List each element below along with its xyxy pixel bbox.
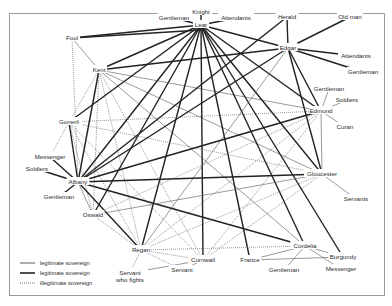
node-label: Servant — [119, 269, 141, 276]
node-old_man: Old man — [337, 12, 363, 20]
edge-edmund-gloucester — [321, 111, 322, 174]
edge-lear-cordelia — [201, 25, 305, 246]
node-label: Messenger — [35, 153, 66, 160]
node-gentleman_lear: Gentleman — [158, 13, 191, 21]
node-label: Attendants — [221, 14, 251, 21]
node-fool: Fool — [64, 33, 80, 41]
node-albany: Albany — [67, 177, 90, 185]
legend-label-thin: legitimate sovereign — [40, 260, 90, 266]
edge-herald-albany — [78, 17, 287, 182]
node-gentleman_edmund: Gentleman — [313, 84, 346, 92]
node-soldiers_edmund: Soldiers — [332, 95, 361, 103]
node-gentleman_albany: Gentleman — [43, 192, 76, 200]
edge-lear-goneril — [69, 25, 201, 122]
node-label: Messenger — [326, 265, 357, 272]
node-label: Edmund — [309, 107, 333, 114]
node-label: Lear — [195, 21, 207, 28]
node-label: Gloucester — [307, 170, 337, 177]
node-label: Soldiers — [26, 165, 48, 172]
node-regan: Regan — [131, 245, 151, 253]
node-servant_fights: Servantwho fights — [112, 268, 148, 283]
node-label: Old man — [338, 13, 362, 20]
node-label: Gentleman — [159, 14, 190, 21]
edge-kent-albany — [78, 70, 99, 182]
node-oswald: Oswald — [82, 210, 105, 218]
node-label: Kent — [93, 66, 106, 73]
edge-lear-edgar — [201, 25, 288, 48]
edge-lear-albany — [78, 25, 201, 182]
legend-label-dotted: illegitimate sovereign — [40, 280, 92, 286]
edges-layer — [37, 12, 363, 273]
edge-kent-gloucester — [99, 70, 322, 174]
node-servant: Servant — [169, 265, 195, 273]
node-edgar: Edgar — [278, 43, 298, 51]
node-label: Gentleman — [44, 193, 75, 200]
node-label: Cornwall — [191, 256, 215, 263]
node-label: Herald — [278, 13, 297, 20]
node-label: Soldiers — [336, 96, 358, 103]
edge-lear-france — [201, 25, 250, 260]
legend-label-thick: legitimate sovereign — [40, 270, 90, 276]
node-gloucester: Gloucester — [304, 169, 340, 177]
node-lear: Lear — [193, 20, 209, 28]
node-label: Servants — [344, 195, 368, 202]
edge-gloucester-regan — [141, 174, 322, 250]
node-soldiers_albany: Soldiers — [22, 164, 51, 172]
node-label: Gentleman — [314, 85, 345, 92]
edge-edmund-cornwall — [203, 111, 321, 260]
node-herald: Herald — [276, 12, 299, 20]
node-label: Gentleman — [269, 266, 300, 273]
edge-edmund-goneril — [69, 111, 321, 122]
node-burgundy: Burgundy — [328, 252, 357, 260]
edge-kent-cornwall — [99, 70, 203, 260]
node-edmund: Edmund — [309, 106, 333, 114]
node-label: Burgundy — [330, 253, 357, 260]
node-knight: Knight — [190, 7, 213, 15]
edge-lear-oswald — [93, 25, 201, 215]
edge-kent-oswald — [93, 70, 99, 215]
node-kent: Kent — [91, 65, 107, 73]
node-label: Edgar — [280, 44, 297, 51]
node-messenger_cordelia: Messenger — [325, 264, 358, 272]
node-label: Servant — [171, 266, 193, 273]
node-servants: Servants — [341, 194, 370, 202]
node-curan: Curan — [335, 122, 355, 130]
character-network-graph: legitimate sovereign legitimate sovereig… — [0, 0, 392, 306]
edge-lear-regan — [141, 25, 201, 250]
node-label: Albany — [69, 178, 89, 185]
node-cordelia: Cordelia — [290, 241, 319, 249]
node-label: Cordelia — [293, 242, 317, 249]
node-label: Knight — [192, 8, 210, 15]
edge-regan-cordelia — [141, 246, 305, 250]
node-label: France — [240, 256, 260, 263]
legend: legitimate sovereign legitimate sovereig… — [20, 260, 92, 286]
edge-edmund-albany — [78, 111, 321, 182]
node-messenger_albany: Messenger — [34, 152, 67, 160]
node-label: Fool — [66, 34, 78, 41]
node-label: Gentleman — [348, 68, 379, 75]
node-label: Oswald — [83, 211, 104, 218]
node-label: Regan — [132, 246, 151, 253]
edge-edgar-regan — [141, 48, 288, 250]
node-attendants_lear: Attendants — [218, 13, 254, 21]
node-gentleman_cordelia: Gentleman — [268, 265, 301, 273]
node-label: Curan — [337, 123, 354, 130]
node-cornwall: Cornwall — [188, 255, 217, 263]
edge-goneril-cornwall — [69, 122, 203, 260]
node-gentleman_edgar: Gentleman — [347, 67, 380, 75]
edge-albany-cordelia — [78, 182, 305, 246]
node-france: France — [239, 255, 262, 263]
node-label: Attendants — [341, 52, 371, 59]
node-goneril: Goneril — [56, 117, 82, 125]
node-label: who fights — [115, 276, 144, 283]
node-attendants_edgar: Attendants — [338, 51, 374, 59]
node-label: Goneril — [59, 118, 79, 125]
